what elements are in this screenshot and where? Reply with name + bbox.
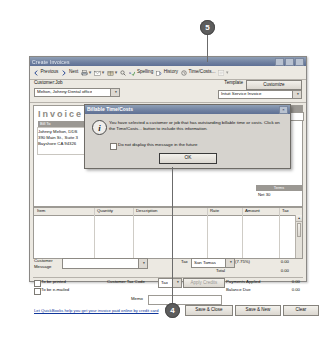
- apply-credits-button[interactable]: Apply Credits: [183, 278, 225, 288]
- create-invoices-window: Create Invoices Previous Next: [29, 56, 307, 282]
- spellcheck-icon: a: [129, 70, 135, 76]
- printer-icon: [81, 70, 87, 76]
- callout-marker-4: 4: [165, 303, 180, 318]
- to-be-printed-label: To be printed: [41, 280, 66, 284]
- window-titlebar[interactable]: Create Invoices: [30, 57, 306, 66]
- clock-icon: [181, 70, 187, 76]
- chevron-down-icon[interactable]: ▾: [292, 91, 301, 98]
- chevron-down-icon[interactable]: ▾: [172, 279, 181, 287]
- ship-caret[interactable]: ▾: [115, 70, 118, 75]
- grid-scrollbar[interactable]: ▲: [295, 215, 302, 258]
- line-item-grid[interactable]: Item Quantity Description Rate Amount Ta…: [33, 207, 303, 259]
- column-header-amount: Amount: [245, 209, 260, 213]
- customize-button[interactable]: Customize: [246, 80, 302, 90]
- customer-tax-code-combo[interactable]: Tax ▾: [158, 278, 182, 288]
- window-title: Create Invoices: [32, 59, 70, 65]
- terms-field[interactable]: Net 30: [256, 191, 302, 198]
- dialog-title: Billable Time/Costs: [87, 107, 133, 112]
- tax-value: San Tomas: [192, 261, 216, 265]
- send-button[interactable]: ▾: [94, 70, 104, 76]
- grid-divider: [279, 208, 280, 258]
- save-new-button[interactable]: Save & New: [235, 305, 281, 316]
- customer-tax-code-label: Customer Tax Code: [107, 280, 145, 284]
- template-value: Intuit Service Invoice: [219, 92, 262, 96]
- print-button[interactable]: ▾: [81, 70, 91, 76]
- dialog-close-icon[interactable]: ×: [279, 106, 288, 114]
- dialog-titlebar[interactable]: Billable Time/Costs ×: [85, 105, 290, 114]
- template-combo[interactable]: Intuit Service Invoice ▾: [218, 90, 302, 99]
- next-button[interactable]: Next: [61, 70, 78, 76]
- customer-job-value: Melton, Johnny:Dental office: [35, 90, 92, 94]
- template-label: Template: [224, 81, 243, 86]
- window-buttons: [275, 58, 304, 66]
- balance-due-label: Balance Due: [226, 288, 251, 292]
- clear-button[interactable]: Clear: [283, 305, 319, 316]
- ok-button-label: OK: [185, 156, 192, 161]
- address-line-1: Johnny Melton, DDS: [38, 130, 77, 134]
- to-be-emailed-label: To be e-mailed: [41, 288, 69, 292]
- next-label: Next: [69, 70, 78, 75]
- column-header-rate: Rate: [210, 209, 219, 213]
- customer-tax-code-value: Tax: [159, 281, 168, 285]
- send-caret[interactable]: ▾: [102, 70, 105, 75]
- maximize-button[interactable]: [285, 58, 294, 66]
- scroll-thumb[interactable]: [297, 223, 301, 237]
- online-payment-link[interactable]: Let QuickBooks help you get your invoice…: [34, 309, 159, 313]
- close-button[interactable]: [295, 58, 304, 66]
- chevron-down-icon[interactable]: ▾: [110, 89, 119, 96]
- column-header-item: Item: [37, 209, 45, 213]
- dialog-message: You have selected a customer or job that…: [109, 120, 284, 133]
- suppress-message-label: Do not display this message in the futur…: [118, 143, 197, 147]
- memo-field[interactable]: [148, 295, 222, 305]
- callout-4-leader: [172, 167, 173, 304]
- tax-rate: (7.75%): [235, 260, 250, 264]
- print-caret[interactable]: ▾: [89, 70, 92, 75]
- minimize-button[interactable]: [275, 58, 284, 66]
- customer-message-label-1: Customer: [34, 259, 53, 263]
- time-costs-button[interactable]: Time/Costs...: [181, 70, 215, 76]
- to-be-printed-checkbox[interactable]: [34, 280, 41, 287]
- letters-button[interactable]: ▾: [218, 70, 228, 76]
- memo-label: Memo: [131, 297, 143, 301]
- callout-5-leader: [207, 35, 208, 62]
- address-line-3: Bayshore CA 94326: [38, 142, 76, 146]
- tax-combo[interactable]: San Tomas ▾: [191, 258, 235, 268]
- time-costs-label: Time/Costs...: [189, 70, 216, 75]
- invoice-header-strip: Customer:Job Melton, Johnny:Dental offic…: [30, 80, 306, 103]
- total-label: Total: [216, 269, 225, 273]
- grid-divider: [207, 208, 208, 258]
- column-header-quantity: Quantity: [97, 209, 113, 213]
- total-amount: 0.00: [255, 269, 289, 273]
- screenshot-canvas: 5 4 Create Invoices Previous: [0, 0, 332, 346]
- address-line-2: 390 Main St., Suite 3: [38, 136, 78, 140]
- chevron-down-icon[interactable]: ▾: [138, 259, 147, 268]
- find-button[interactable]: [120, 70, 126, 76]
- info-icon: i: [92, 120, 107, 135]
- save-close-button[interactable]: Save & Close: [185, 305, 233, 316]
- payments-applied-amount: 0.00: [262, 280, 300, 284]
- customer-message-combo[interactable]: ▾: [62, 258, 148, 269]
- ok-button[interactable]: OK: [159, 153, 217, 164]
- customer-job-combo[interactable]: Melton, Johnny:Dental office ▾: [34, 88, 120, 97]
- to-be-emailed-checkbox[interactable]: [34, 288, 41, 295]
- next-arrow-icon: [61, 70, 67, 76]
- svg-text:a: a: [129, 70, 131, 74]
- previous-button[interactable]: Previous: [33, 70, 58, 76]
- grid-header-row: Item Quantity Description Rate Amount Ta…: [34, 208, 302, 216]
- grid-divider: [242, 208, 243, 258]
- spelling-button[interactable]: a Spelling: [129, 70, 153, 76]
- callout-marker-5: 5: [200, 20, 215, 35]
- shipping-box-icon: [107, 70, 113, 76]
- payments-applied-label: Payments Applied: [226, 280, 260, 284]
- suppress-message-checkbox[interactable]: [110, 143, 117, 150]
- grid-divider: [133, 208, 134, 258]
- ship-button[interactable]: ▾: [107, 70, 117, 76]
- chevron-down-icon[interactable]: ▾: [225, 259, 234, 267]
- customer-message-label-2: Message: [34, 265, 51, 269]
- scroll-up-icon[interactable]: ▲: [296, 215, 302, 222]
- history-button[interactable]: History: [156, 70, 178, 76]
- grid-divider: [94, 208, 95, 258]
- terms-value: Net 30: [256, 191, 302, 198]
- invoice-footer: Customer Message ▾ Tax San Tomas ▾ (7.75…: [30, 258, 306, 281]
- letters-caret[interactable]: ▾: [226, 70, 229, 75]
